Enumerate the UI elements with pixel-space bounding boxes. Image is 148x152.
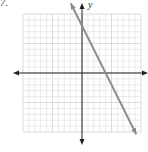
x-axis-left-arrow-icon	[13, 71, 19, 76]
coordinate-plane	[0, 0, 148, 152]
plotted-line	[71, 3, 136, 134]
x-axis-right-arrow-icon	[142, 71, 148, 76]
data-line	[71, 3, 136, 134]
y-axis-up-arrow-icon	[80, 3, 85, 9]
y-axis-down-arrow-icon	[80, 139, 85, 145]
